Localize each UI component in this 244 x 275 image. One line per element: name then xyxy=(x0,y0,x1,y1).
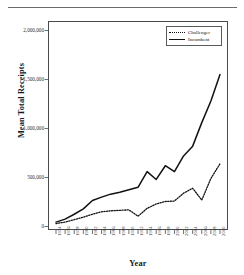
x-tick-label: 1998 xyxy=(167,226,172,236)
x-tick-label: 1988 xyxy=(122,226,127,236)
legend-label-incumbent: Incumbent xyxy=(188,37,209,42)
y-axis-title: Mean Total Receipts xyxy=(17,26,26,176)
x-tick-label: 1978 xyxy=(76,226,81,236)
chart-legend: Challenger Incumbent xyxy=(166,26,222,46)
x-tick-label: 2008 xyxy=(213,226,218,236)
x-tick-label: 1994 xyxy=(149,226,154,236)
x-tick-label: 1982 xyxy=(94,226,99,236)
x-tick-label: 1974 xyxy=(58,226,63,236)
legend-item-challenger: Challenger xyxy=(169,30,219,36)
x-tick-label: 1996 xyxy=(158,226,163,236)
legend-key-solid-icon xyxy=(169,37,185,42)
x-tick-label: 1986 xyxy=(112,226,117,236)
x-tick-label: 1984 xyxy=(103,226,108,236)
figure-container: 2,000,000 1,500,000 1,000,000 500,000 0 … xyxy=(0,0,244,275)
x-tick-label: 1980 xyxy=(85,226,90,236)
x-tick-label: 2002 xyxy=(185,226,190,236)
x-tick-label: 2004 xyxy=(194,226,199,236)
legend-item-incumbent: Incumbent xyxy=(169,36,219,42)
x-tick-label: 2010 xyxy=(222,226,227,236)
x-tick-label: 1990 xyxy=(131,226,136,236)
legend-label-challenger: Challenger xyxy=(188,30,210,35)
x-tick-label: 2006 xyxy=(204,226,209,236)
x-tick-label: 1976 xyxy=(67,226,72,236)
x-tick-label: 2000 xyxy=(176,226,181,236)
legend-key-dotted-icon xyxy=(169,30,185,35)
x-axis-title: Year xyxy=(48,259,228,268)
x-tick-label: 1992 xyxy=(140,226,145,236)
